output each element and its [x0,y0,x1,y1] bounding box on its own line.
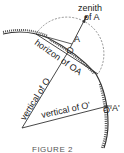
point-o-prime-label: O' [103,105,112,115]
earth-surface [3,30,108,148]
zenith-label-line2: of A [84,12,100,22]
figure-caption: FIGURE 2 [32,145,73,153]
point-a-label: A [74,34,80,44]
figure-2-diagram: zenith of A A O horizon of OA vertical o… [0,0,124,153]
point-a-prime-label: A' [112,103,120,113]
